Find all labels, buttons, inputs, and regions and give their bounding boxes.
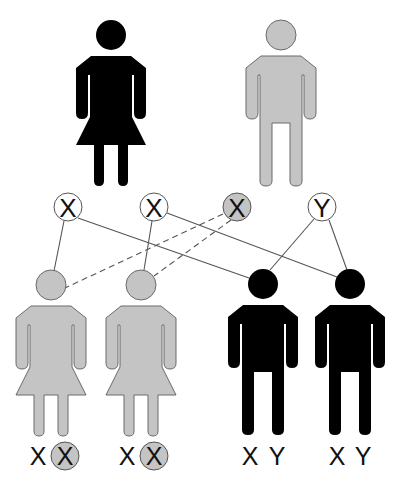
d1-allele-a: X [30,442,47,470]
daughter1-genotype: X X [30,442,79,470]
gamete-x3-highlighted: X [223,193,251,223]
son2-genotype: X Y [329,442,372,470]
gamete-x2: X [140,193,168,223]
daughter2-figure [106,270,176,436]
son1-figure [228,269,298,435]
gamete-x2-label: X [145,193,162,223]
gamete-y1: Y [308,193,336,223]
son1-genotype: X Y [242,442,286,470]
gamete-x3-label: X [228,193,245,223]
son2-figure [315,269,385,435]
line-y1-son1 [270,219,314,270]
line-x1-daughter1 [54,221,64,271]
d1-allele-b: X [57,442,74,470]
daughter2-genotype: X X [119,442,168,470]
line-x2-daughter2 [144,221,152,270]
d2-allele-a: X [119,442,136,470]
s2-allele-a: X [329,442,346,470]
father-figure [246,20,316,186]
d2-allele-b: X [146,442,163,470]
mother-figure [76,20,146,186]
daughter1-figure [16,270,86,436]
s1-allele-a: X [242,442,259,470]
line-y1-son2 [329,220,347,270]
inheritance-lines [54,213,347,288]
s1-allele-b: Y [269,442,286,470]
x-linked-inheritance-diagram: X X X Y X X X X X Y X Y [0,0,399,489]
s2-allele-b: Y [355,442,372,470]
gamete-y1-label: Y [313,193,330,223]
gamete-x1-label: X [59,193,76,223]
gamete-x1: X [54,193,82,223]
